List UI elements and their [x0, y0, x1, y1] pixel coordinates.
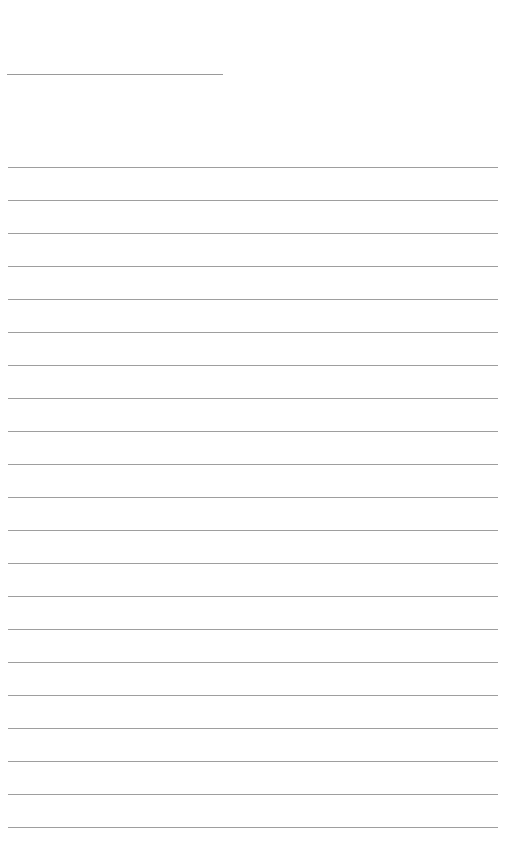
ruled-line — [8, 728, 498, 729]
ruled-line — [8, 365, 498, 366]
ruled-line — [8, 794, 498, 795]
ruled-line — [8, 431, 498, 432]
ruled-line — [8, 200, 498, 201]
title-underline — [7, 74, 223, 75]
ruled-line — [8, 266, 498, 267]
ruled-line — [8, 629, 498, 630]
ruled-line — [8, 497, 498, 498]
ruled-line — [8, 761, 498, 762]
ruled-line — [8, 695, 498, 696]
lined-page — [0, 0, 527, 862]
ruled-line — [8, 596, 498, 597]
ruled-line — [8, 530, 498, 531]
ruled-line — [8, 299, 498, 300]
ruled-line — [8, 464, 498, 465]
ruled-line — [8, 827, 498, 828]
ruled-line — [8, 398, 498, 399]
ruled-line — [8, 662, 498, 663]
ruled-line — [8, 332, 498, 333]
ruled-line — [8, 233, 498, 234]
ruled-line — [8, 563, 498, 564]
ruled-line — [8, 167, 498, 168]
